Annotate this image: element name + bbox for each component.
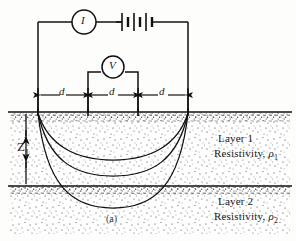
layer-1-rho-subscript: 1 xyxy=(274,153,278,162)
layer-1-resistivity-prefix: Resistivity, xyxy=(214,147,268,159)
ammeter-label: I xyxy=(81,15,85,27)
wire-voltmeter-left xyxy=(88,72,101,112)
voltmeter-label: V xyxy=(109,60,116,72)
layer-2-resistivity: Resistivity, ρ2 xyxy=(214,211,278,226)
surface-stipple-band xyxy=(10,113,290,122)
boundary-stipple-band xyxy=(10,187,290,195)
battery-symbol xyxy=(116,13,158,31)
spacing-label-middle: d xyxy=(109,86,115,98)
depth-label: Z1 xyxy=(17,140,29,157)
figure-caption: (a) xyxy=(106,214,117,225)
spacing-label-right: d xyxy=(159,86,165,98)
spacing-label-left: d xyxy=(59,86,65,98)
resistivity-survey-figure: I V d d d Z1 Layer 1 Resistivity, ρ1 Lay… xyxy=(0,0,296,241)
layer-2-rho-subscript: 2 xyxy=(274,216,278,225)
layer-1-resistivity: Resistivity, ρ1 xyxy=(214,148,278,163)
depth-label-subscript: 1 xyxy=(25,148,29,157)
layer-2-name: Layer 2 xyxy=(218,196,253,208)
layer-1-name: Layer 1 xyxy=(218,133,253,145)
wire-voltmeter-right xyxy=(125,72,138,112)
layer-2-resistivity-prefix: Resistivity, xyxy=(214,210,268,222)
depth-label-symbol: Z xyxy=(17,139,25,154)
